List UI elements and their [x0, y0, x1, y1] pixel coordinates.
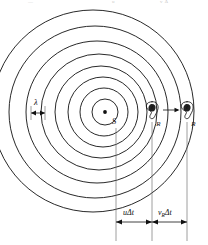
wavefront-circle-5	[41, 54, 157, 170]
receiver-far-label: R	[190, 120, 196, 127]
source-label: S	[112, 116, 117, 126]
dimension-u-arrow-right	[146, 220, 152, 225]
receiver-motion-arrow	[163, 108, 180, 112]
source-point	[103, 110, 107, 114]
receiver-near-label: R	[155, 120, 161, 127]
dimension-u-arrow-left	[116, 220, 122, 225]
dimension-vr-arrow-right	[181, 220, 187, 225]
receiver-near: R	[146, 102, 161, 127]
dimension-vr-arrow-left	[152, 220, 158, 225]
wavefront-circle-4	[55, 66, 147, 158]
figure-root: — u v Δ S λ	[0, 0, 208, 245]
wavefront-circle-3	[68, 77, 138, 147]
wavelength-arrow-left	[31, 111, 36, 116]
dimension-label-vr: vRΔt	[158, 208, 173, 218]
dimension-label-vr-tail: Δt	[164, 208, 173, 217]
wavelength-marker: λ	[31, 97, 45, 120]
wavefront-circle-8	[0, 10, 194, 212]
dimension-label-u: uΔt	[123, 208, 135, 217]
wavefront-group	[0, 10, 194, 212]
wavelength-label: λ	[33, 97, 38, 107]
dimension-row: uΔt vRΔt	[116, 208, 187, 224]
motion-arrow-head	[175, 108, 180, 112]
wavelength-arrow-right	[40, 111, 45, 116]
doppler-diagram: S λ R R	[0, 0, 208, 245]
